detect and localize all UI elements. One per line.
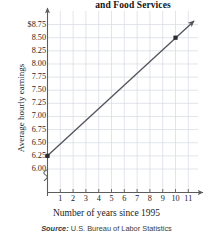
data-series-line: [48, 21, 195, 156]
source-note: Source: U.S. Bureau of Labor Statistics: [0, 224, 213, 233]
chart-figure: and Food Services Average hourly earning…: [0, 0, 213, 238]
x-axis-tick-labels: 1234567891011: [0, 194, 213, 206]
source-body: U.S. Bureau of Labor Statistics: [69, 224, 172, 233]
source-prefix: Source:: [41, 224, 69, 233]
trend-line: [48, 21, 195, 156]
x-axis-title: Number of years since 1995: [0, 208, 213, 218]
data-point-marker: [173, 36, 177, 40]
x-axis-tick-label: 11: [181, 194, 195, 203]
y-axis-break-symbol: [44, 170, 48, 181]
data-point-marker: [45, 154, 49, 158]
